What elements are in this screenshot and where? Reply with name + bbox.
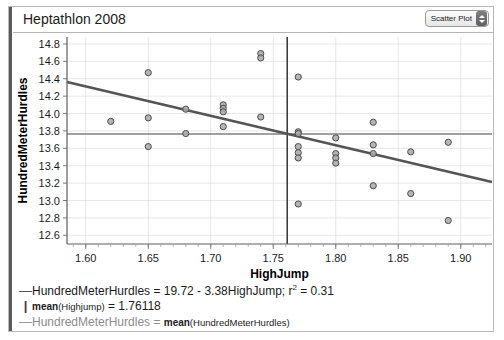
- up-down-stepper-icon[interactable]: [476, 11, 487, 26]
- data-point[interactable]: [220, 123, 226, 129]
- data-point[interactable]: [295, 201, 301, 207]
- data-point[interactable]: [370, 119, 376, 125]
- legend-label-regression: HundredMeterHurdles = 19.72 - 3.38HighJu…: [32, 283, 334, 298]
- plot-type-label: Scatter Plot: [431, 14, 476, 23]
- data-point[interactable]: [145, 115, 151, 121]
- y-tick-label: 13.4: [39, 160, 60, 172]
- data-point[interactable]: [295, 143, 301, 149]
- x-axis-title: HighJump: [250, 267, 309, 281]
- data-point[interactable]: [183, 130, 189, 136]
- data-point[interactable]: [370, 150, 376, 156]
- legend-item-mean-y: — HundredMeterHurdles = mean(HundredMete…: [19, 315, 494, 331]
- data-point[interactable]: [408, 190, 414, 196]
- data-point[interactable]: [295, 74, 301, 80]
- y-tick-label: 13.6: [39, 142, 60, 154]
- data-point[interactable]: [333, 160, 339, 166]
- data-point[interactable]: [408, 149, 414, 155]
- y-tick-label: 14.0: [39, 108, 60, 120]
- dash-line-icon: —: [19, 284, 32, 297]
- data-point[interactable]: [445, 217, 451, 223]
- vertical-bar-icon: |: [19, 299, 32, 312]
- data-point[interactable]: [258, 55, 264, 61]
- x-tick-label: 1.75: [263, 252, 284, 264]
- data-point[interactable]: [333, 135, 339, 141]
- data-points: [108, 50, 452, 223]
- x-tick-label: 1.70: [200, 252, 221, 264]
- data-point[interactable]: [108, 118, 114, 124]
- legend: — HundredMeterHurdles = 19.72 - 3.38High…: [13, 283, 494, 332]
- data-point[interactable]: [370, 183, 376, 189]
- data-point[interactable]: [220, 109, 226, 115]
- legend-label-mean-x: mean(Highjump) = 1.76118: [32, 299, 161, 313]
- page-title: Heptathlon 2008: [23, 11, 126, 27]
- legend-item-mean-x: | mean(Highjump) = 1.76118: [19, 299, 494, 315]
- y-axis-title: HundredMeterHurdles: [16, 77, 30, 203]
- data-point[interactable]: [370, 142, 376, 148]
- data-point[interactable]: [295, 130, 301, 136]
- window-title-bar: Heptathlon 2008 Scatter Plot: [13, 7, 494, 33]
- y-tick-label: 13.8: [39, 125, 60, 137]
- y-tick-label: 13.2: [39, 177, 60, 189]
- data-point[interactable]: [295, 155, 301, 161]
- data-point[interactable]: [258, 114, 264, 120]
- chart-canvas: 14.814.614.414.214.013.813.613.413.213.0…: [13, 33, 494, 283]
- regression-line: [67, 82, 492, 182]
- data-point[interactable]: [183, 106, 189, 112]
- x-tick-label: 1.60: [75, 252, 96, 264]
- mean-reference-lines: [67, 37, 492, 244]
- plot-type-select[interactable]: Scatter Plot: [425, 10, 489, 27]
- x-tick-label: 1.65: [138, 252, 159, 264]
- x-tick-label: 1.80: [325, 252, 346, 264]
- legend-label-mean-y: HundredMeterHurdles = mean(HundredMeterH…: [32, 315, 290, 329]
- y-tick-label: 12.8: [39, 212, 60, 224]
- y-tick-label: 14.2: [39, 90, 60, 102]
- plot-window: Heptathlon 2008 Scatter Plot 14.814.614.…: [8, 6, 494, 332]
- y-tick-label: 14.4: [39, 73, 60, 85]
- x-tick-label: 1.85: [388, 252, 409, 264]
- grid-lines: [67, 37, 492, 244]
- data-point[interactable]: [145, 143, 151, 149]
- legend-item-regression: — HundredMeterHurdles = 19.72 - 3.38High…: [19, 283, 494, 299]
- axes: [63, 37, 492, 249]
- y-tick-label: 14.8: [39, 38, 60, 50]
- x-tick-label: 1.90: [450, 252, 471, 264]
- data-point[interactable]: [445, 139, 451, 145]
- dash-line-gray-icon: —: [19, 315, 32, 328]
- chevron-down-icon: [479, 20, 485, 23]
- y-tick-label: 12.6: [39, 229, 60, 241]
- y-tick-label: 13.0: [39, 195, 60, 207]
- chevron-up-icon: [479, 15, 485, 18]
- y-tick-label: 14.6: [39, 55, 60, 67]
- data-point[interactable]: [145, 70, 151, 76]
